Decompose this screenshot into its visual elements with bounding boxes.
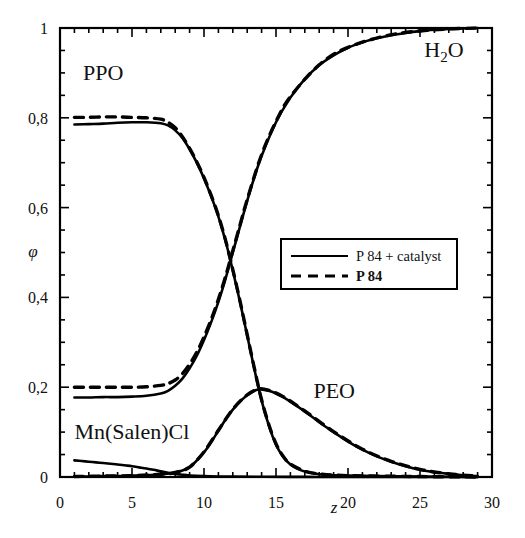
annotation-peo: PEO xyxy=(313,378,355,403)
legend-label-1: P 84 xyxy=(356,268,382,284)
legend: P 84 + catalyst P 84 xyxy=(281,239,457,289)
annotation-ppo: PPO xyxy=(83,60,123,85)
y-tick-label: 0,8 xyxy=(28,110,48,127)
x-axis-label: z xyxy=(330,498,338,517)
chart-svg: 051015202530 00,20,40,60,81 φ z PPOH2OPE… xyxy=(0,0,525,538)
y-tick-label: 0,6 xyxy=(28,200,48,217)
figure-container: 051015202530 00,20,40,60,81 φ z PPOH2OPE… xyxy=(0,0,525,538)
x-tick-label: 20 xyxy=(340,494,356,511)
x-tick-label: 5 xyxy=(128,494,136,511)
legend-label-0: P 84 + catalyst xyxy=(356,248,441,264)
x-tick-label: 0 xyxy=(56,494,64,511)
y-tick-label: 0,4 xyxy=(28,289,48,306)
x-tick-label: 15 xyxy=(268,494,284,511)
y-tick-label: 0 xyxy=(40,469,48,486)
x-tick-label: 30 xyxy=(484,494,500,511)
x-tick-label: 25 xyxy=(412,494,428,511)
annotation-mn-salen-cl: Mn(Salen)Cl xyxy=(74,419,189,444)
y-tick-label: 0,2 xyxy=(28,379,48,396)
x-tick-label: 10 xyxy=(196,494,212,511)
y-tick-label: 1 xyxy=(40,20,48,37)
y-axis-label: φ xyxy=(28,242,37,261)
